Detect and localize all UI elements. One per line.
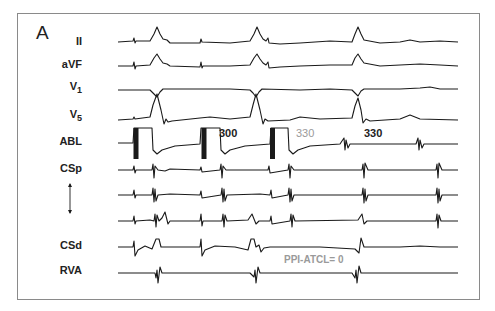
ecg-tracing [0,0,495,311]
trace-cs-mid1 [118,188,458,203]
trace-csd [118,238,458,256]
trace-csp [118,163,458,178]
trace-ii [118,27,458,44]
trace-cs-mid2 [118,212,458,228]
cs-double-arrow-icon [68,183,72,214]
trace-abl [118,128,458,159]
trace-v1 [118,87,458,97]
trace-rva [118,266,458,283]
trace-v5 [118,94,458,124]
trace-avf [118,54,458,69]
